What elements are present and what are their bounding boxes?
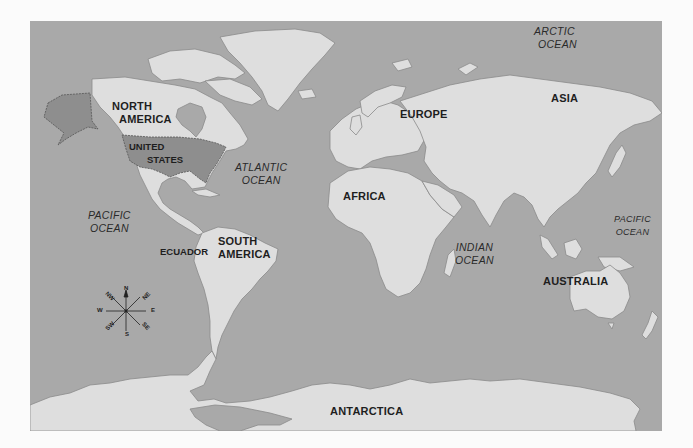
compass-s: S xyxy=(125,331,129,337)
label-pacific-ocean-east: PACIFIC OCEAN xyxy=(614,213,651,239)
label-south-america: SOUTH AMERICA xyxy=(218,235,271,261)
label-indian-ocean: INDIAN OCEAN xyxy=(455,241,494,267)
compass-w: W xyxy=(97,307,103,313)
label-asia: ASIA xyxy=(551,92,578,105)
label-europe: EUROPE xyxy=(400,108,448,121)
label-arctic-ocean: ARCTIC OCEAN xyxy=(532,25,577,51)
label-africa: AFRICA xyxy=(343,190,386,203)
label-north-america: NORTH AMERICA xyxy=(112,100,172,126)
compass-e: E xyxy=(151,307,155,313)
label-atlantic-ocean: ATLANTIC OCEAN xyxy=(235,161,287,187)
label-united-states: UNITED STATES xyxy=(129,140,183,166)
label-pacific-ocean-west: PACIFIC OCEAN xyxy=(88,209,131,235)
compass-n: N xyxy=(124,285,128,291)
label-australia: AUSTRALIA xyxy=(543,275,608,288)
label-ecuador: ECUADOR xyxy=(160,245,208,258)
label-antarctica: ANTARCTICA xyxy=(330,405,403,418)
world-map: N NE E SE S SW W NW NORTH AMERICA SOUTH … xyxy=(30,21,662,431)
